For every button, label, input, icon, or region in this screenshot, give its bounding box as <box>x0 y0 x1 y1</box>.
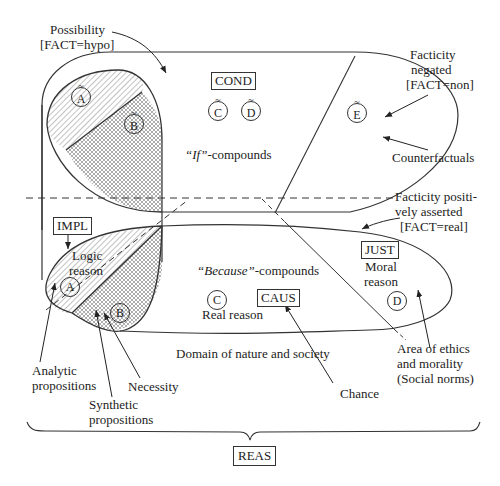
possibility-fact: [FACT=hypo] <box>40 38 114 52</box>
circle-b-tilde: ~B <box>124 114 144 134</box>
possibility-label: Possibility <box>50 23 105 37</box>
real-reason-label: Real reason <box>202 308 263 322</box>
if-compounds-label: “If”-compounds <box>185 148 272 162</box>
logic-reason-line2: reason <box>69 264 103 278</box>
because-compounds-label: “Because”-compounds <box>197 264 319 278</box>
facticity-negated-line1: Facticity <box>410 48 456 62</box>
impl-box: IMPL <box>53 217 92 235</box>
analytic-line2: propositions <box>32 379 96 393</box>
because-compounds-boundary <box>120 225 452 334</box>
ethics-line1: Area of ethics <box>397 342 470 356</box>
synthetic-line1: Synthetic <box>89 398 138 412</box>
synthetic-line2: propositions <box>89 413 153 427</box>
cond-box: COND <box>211 72 256 90</box>
moral-reason-line2: reason <box>364 275 398 289</box>
analytic-line1: Analytic <box>32 364 77 378</box>
chance-label: Chance <box>340 387 379 401</box>
necessity-label: Necessity <box>128 380 179 394</box>
logic-reason-line1: Logic <box>72 249 102 263</box>
circle-a: A <box>60 277 80 297</box>
facticity-negated-fact: [FACT=non] <box>406 78 474 92</box>
just-box: JUST <box>361 241 399 259</box>
facticity-positive-fact: [FACT=real] <box>400 220 468 234</box>
reas-box: REAS <box>233 446 276 466</box>
circle-b: B <box>110 303 130 323</box>
circle-e-tilde: ~E <box>347 103 367 123</box>
ethics-line2: and morality <box>397 357 463 371</box>
top-shaded-region <box>47 56 162 212</box>
moral-reason-line1: Moral <box>365 260 397 274</box>
caus-box: CAUS <box>257 289 300 307</box>
circle-a-tilde: ~A <box>71 87 91 107</box>
circle-d-tilde: ~D <box>241 101 261 121</box>
facticity-positive-line1: Facticity positi- <box>395 190 477 204</box>
facticity-positive-line2: vely asserted <box>395 205 463 219</box>
counterfactuals-label: Counterfactuals <box>392 151 474 165</box>
ethics-line3: (Social norms) <box>397 372 474 386</box>
domain-label: Domain of nature and society <box>176 347 330 361</box>
circle-d: D <box>387 291 407 311</box>
circle-c: C <box>207 290 227 310</box>
circle-c-tilde: ~C <box>208 101 228 121</box>
facticity-negated-line2: negated <box>411 63 451 77</box>
